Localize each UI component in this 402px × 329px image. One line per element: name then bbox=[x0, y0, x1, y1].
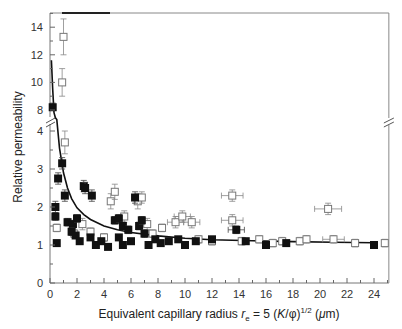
data-point bbox=[124, 226, 132, 234]
x-tick-label: 10 bbox=[179, 288, 191, 300]
x-tick-label: 22 bbox=[341, 288, 353, 300]
y-tick-label: 10 bbox=[31, 76, 43, 88]
x-tick-label: 14 bbox=[233, 288, 245, 300]
data-point bbox=[165, 237, 173, 245]
data-point bbox=[269, 239, 276, 247]
data-point bbox=[53, 224, 60, 232]
x-tick-label: 6 bbox=[128, 288, 134, 300]
data-point bbox=[296, 237, 303, 245]
x-axis-ticks: 024681012141618202224 bbox=[47, 278, 388, 300]
data-point bbox=[256, 236, 263, 244]
x-tick-label: 20 bbox=[314, 288, 326, 300]
data-point bbox=[115, 214, 123, 222]
y-tick-label: 12 bbox=[31, 49, 43, 61]
data-point bbox=[262, 241, 270, 249]
data-point bbox=[104, 243, 112, 251]
x-tick-label: 24 bbox=[368, 288, 380, 300]
data-point bbox=[228, 226, 244, 234]
data-point bbox=[370, 241, 378, 249]
data-point bbox=[181, 241, 189, 249]
data-point bbox=[221, 190, 243, 201]
x-tick-label: 18 bbox=[287, 288, 299, 300]
data-point bbox=[61, 190, 69, 201]
data-point bbox=[54, 173, 62, 184]
data-point bbox=[111, 184, 118, 199]
data-point bbox=[381, 239, 388, 247]
y-axis-label: Relative permeability bbox=[11, 91, 25, 202]
data-point bbox=[61, 131, 68, 154]
data-point bbox=[131, 192, 139, 203]
x-tick-label: 0 bbox=[47, 288, 53, 300]
data-point bbox=[107, 194, 114, 209]
data-point bbox=[138, 216, 146, 224]
data-point bbox=[53, 239, 61, 247]
y-tick-label: 8 bbox=[37, 104, 43, 116]
data-point bbox=[352, 239, 359, 247]
data-point bbox=[282, 239, 290, 247]
data-point bbox=[138, 192, 145, 203]
x-tick-label: 8 bbox=[155, 288, 161, 300]
x-axis-label: Equivalent capillary radius re = 5 (K/φ)… bbox=[98, 306, 339, 323]
data-point bbox=[59, 69, 66, 97]
data-point bbox=[73, 214, 81, 222]
data-point bbox=[51, 213, 59, 221]
x-tick-label: 2 bbox=[74, 288, 80, 300]
data-point bbox=[58, 158, 66, 169]
data-point bbox=[159, 224, 166, 232]
y-tick-label: 4 bbox=[37, 125, 43, 137]
data-point bbox=[115, 233, 123, 241]
y-tick-label: 14 bbox=[31, 21, 43, 33]
data-point bbox=[192, 237, 200, 245]
data-point bbox=[315, 203, 342, 214]
y-tick-label: 3 bbox=[37, 163, 43, 175]
x-tick-label: 16 bbox=[260, 288, 272, 300]
data-point bbox=[127, 237, 135, 245]
y-axis-ticks: 012348101214 bbox=[31, 13, 55, 289]
data-point bbox=[119, 241, 127, 249]
data-point bbox=[242, 237, 250, 245]
x-tick-label: 12 bbox=[206, 288, 218, 300]
data-point bbox=[157, 239, 165, 247]
open-square-series bbox=[53, 19, 388, 247]
x-tick-label: 4 bbox=[101, 288, 107, 300]
data-point bbox=[303, 236, 310, 244]
filled-square-series bbox=[49, 103, 378, 251]
fit-curve bbox=[51, 60, 374, 242]
y-tick-label: 1 bbox=[37, 239, 43, 251]
data-point bbox=[221, 215, 243, 226]
data-point bbox=[87, 233, 95, 241]
data-point bbox=[208, 235, 216, 243]
chart-figure: 024681012141618202224 012348101214 Relat… bbox=[0, 0, 402, 329]
y-tick-label: 2 bbox=[37, 201, 43, 213]
y-tick-label: 0 bbox=[37, 277, 43, 289]
data-point bbox=[141, 230, 149, 238]
data-point bbox=[76, 237, 84, 245]
data-point bbox=[88, 190, 96, 201]
data-point bbox=[60, 19, 67, 55]
